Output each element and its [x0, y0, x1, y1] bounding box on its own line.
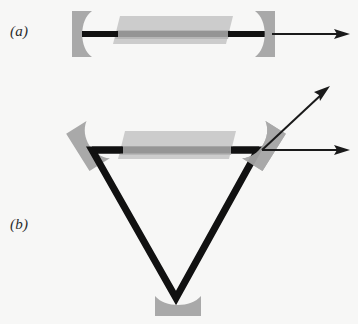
panel-b: [66, 86, 350, 316]
figure-canvas: (a) (b): [0, 0, 358, 324]
intracavity-ring-beam-b: [92, 150, 258, 298]
optical-cavity-diagram: [0, 0, 358, 324]
gain-medium-core-b: [120, 146, 233, 155]
panel-a: [72, 11, 350, 57]
gain-medium-core-a: [115, 30, 230, 39]
panel-label-b: (b): [10, 216, 28, 233]
panel-label-a: (a): [10, 23, 28, 40]
output-beam-diagonal-b: [262, 94, 322, 150]
